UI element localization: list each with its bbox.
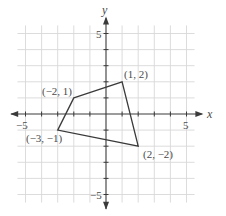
- y-axis-up-arrow-icon: [103, 17, 109, 25]
- axes: [10, 17, 203, 210]
- x-axis-left-arrow-icon: [10, 111, 18, 117]
- coordinate-plane-svg: x y −5 5 5 −5 (−2, 1) (1, 2) (2, −2) (−3…: [0, 0, 226, 216]
- y-tick-label-neg5: −5: [90, 189, 102, 201]
- y-axis-down-arrow-icon: [103, 202, 109, 210]
- coordinate-plane-figure: x y −5 5 5 −5 (−2, 1) (1, 2) (2, −2) (−3…: [0, 0, 226, 216]
- vertex-label-c: (2, −2): [143, 148, 173, 161]
- y-axis-label: y: [101, 3, 108, 17]
- vertex-label-b: (1, 2): [124, 68, 148, 81]
- x-axis-label: x: [206, 107, 213, 121]
- x-axis-right-arrow-icon: [195, 111, 203, 117]
- vertex-label-a: (−2, 1): [42, 85, 72, 98]
- x-tick-label-5: 5: [183, 119, 189, 131]
- vertex-label-d: (−3, −1): [26, 132, 63, 145]
- y-tick-label-5: 5: [96, 28, 102, 40]
- x-tick-label-neg5: −5: [16, 119, 28, 131]
